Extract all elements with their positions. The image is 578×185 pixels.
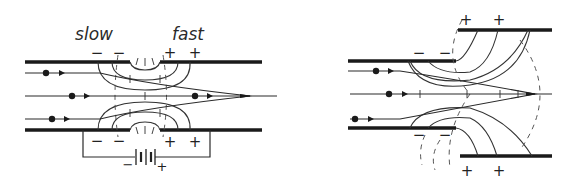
arrow-icon bbox=[59, 70, 65, 76]
focus-point bbox=[240, 94, 252, 98]
charge-minus: − bbox=[91, 44, 104, 62]
arrow-icon bbox=[402, 91, 408, 97]
charge-minus: − bbox=[113, 44, 126, 62]
right-panel: + + − − bbox=[348, 11, 552, 180]
electrostatic-lens-diagram: slow fast − − + + bbox=[0, 0, 578, 185]
charge-plus: + bbox=[493, 162, 506, 180]
charge-plus: + bbox=[189, 133, 202, 151]
left-panel: slow fast − − + + bbox=[25, 24, 277, 174]
electron-dot bbox=[49, 116, 55, 122]
charge-minus: − bbox=[439, 126, 452, 144]
electron-beams bbox=[25, 70, 277, 122]
focus-point bbox=[526, 92, 538, 96]
electron-dot bbox=[43, 70, 49, 76]
charge-plus: + bbox=[461, 162, 474, 180]
charge-minus: − bbox=[113, 132, 126, 150]
charge-minus: − bbox=[413, 126, 426, 144]
field-lines bbox=[408, 30, 532, 156]
electron-dot bbox=[386, 91, 392, 97]
arrow-icon bbox=[64, 116, 70, 122]
fast-label: fast bbox=[172, 24, 205, 44]
arrow-icon bbox=[388, 68, 394, 74]
charge-plus: + bbox=[189, 44, 202, 62]
charge-plus: + bbox=[164, 133, 177, 151]
electron-dot bbox=[69, 93, 75, 99]
arrow-icon bbox=[84, 93, 90, 99]
charge-plus: + bbox=[493, 11, 506, 29]
equipotential-lines bbox=[420, 20, 540, 170]
electron-dot bbox=[192, 93, 198, 99]
charge-plus: + bbox=[164, 44, 177, 62]
charge-minus: − bbox=[91, 132, 104, 150]
arrow-icon bbox=[368, 116, 374, 122]
arrow-icon bbox=[207, 93, 213, 99]
electron-beams bbox=[348, 68, 552, 122]
electron-dot bbox=[373, 68, 379, 74]
battery-minus: − bbox=[123, 157, 134, 172]
slow-label: slow bbox=[75, 24, 113, 44]
battery-plus: + bbox=[157, 159, 168, 174]
electron-dot bbox=[352, 116, 358, 122]
